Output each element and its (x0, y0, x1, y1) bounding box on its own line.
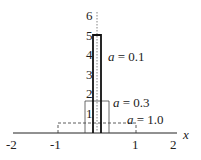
x-tick-neg2: -2 (6, 137, 17, 152)
pulse-chart: 6 5 4 3 2 1 -2 -1 1 2 x a = 0.1 a = 0.3 … (0, 0, 201, 160)
x-axis-label: x (182, 127, 189, 142)
y-tick-1: 1 (86, 106, 93, 121)
y-tick-5: 5 (86, 28, 93, 43)
x-tick-2: 2 (170, 137, 177, 152)
label-a-0-1: a = 0.1 (108, 49, 145, 64)
label-a-0-3: a = 0.3 (113, 95, 150, 110)
y-tick-2: 2 (86, 86, 93, 101)
y-tick-3: 3 (86, 67, 93, 82)
x-tick-1: 1 (132, 137, 139, 152)
x-tick-neg1: -1 (50, 137, 61, 152)
y-tick-6: 6 (86, 8, 93, 23)
y-tick-4: 4 (86, 47, 93, 62)
label-a-1-0: a = 1.0 (127, 112, 164, 127)
